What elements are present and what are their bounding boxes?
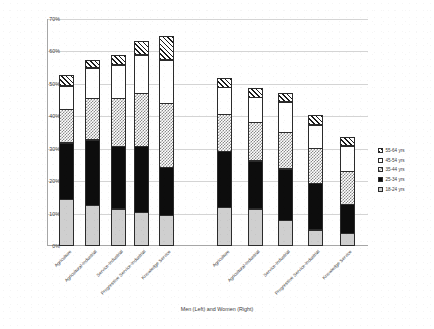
segment-18-24-yrs [248,209,263,246]
bar-women-0 [217,79,232,246]
y-tick-40%: 40% [20,113,60,119]
legend-label: 18-24 yrs [385,187,404,192]
segment-18-24-yrs [85,205,100,246]
segment-35-44-yrs [85,98,100,140]
legend-item-18-24-yrs: 18-24 yrs [378,184,432,194]
segment-45-54-yrs [59,86,74,110]
segment-25-34-yrs [59,143,74,200]
segment-35-44-yrs [248,122,263,161]
segment-35-44-yrs [278,132,293,169]
y-tick-50%: 50% [20,81,60,87]
bar-women-4 [340,137,355,246]
segment-25-34-yrs [217,151,232,208]
stacked-bar-chart: Proportion TEA Active 0%10%20%30%40%50%6… [0,0,434,329]
segment-45-54-yrs [85,68,100,99]
legend-label: 25-34 yrs [385,177,404,182]
segment-18-24-yrs [340,233,355,246]
segment-18-24-yrs [59,199,74,246]
segment-45-54-yrs [217,87,232,115]
segment-35-44-yrs [308,148,323,184]
segment-25-34-yrs [111,146,126,209]
legend-item-55-64-yrs: 55-64 yrs [378,146,432,156]
gridline-70% [48,19,368,20]
gridline-60% [48,51,368,52]
y-tick-30%: 30% [20,146,60,152]
x-tick-women-0: Agriculture [211,249,230,268]
chart-legend: 55-64 yrs45-54 yrs35-44 yrs25-34 yrs18-2… [378,146,432,194]
y-tick-60%: 60% [20,48,60,54]
legend-item-45-54-yrs: 45-54 yrs [378,156,432,166]
segment-45-54-yrs [278,102,293,133]
segment-25-34-yrs [278,169,293,221]
legend-label: 35-44 yrs [385,167,404,172]
y-tick-20%: 20% [20,178,60,184]
segment-55-64-yrs [134,41,149,56]
segment-25-34-yrs [134,146,149,212]
y-tick-0%: 0% [20,243,60,249]
legend-label: 55-64 yrs [385,148,404,153]
legend-label: 45-54 yrs [385,158,404,163]
segment-18-24-yrs [217,207,232,246]
x-tick-women-1: Agricultural-Industrial [227,249,261,283]
segment-35-44-yrs [340,171,355,205]
segment-18-24-yrs [111,209,126,246]
segment-55-64-yrs [159,36,174,60]
segment-55-64-yrs [59,75,74,86]
bar-men-2 [111,56,126,246]
segment-25-34-yrs [308,183,323,230]
segment-45-54-yrs [159,60,174,104]
x-tick-men-0: Agriculture [53,249,72,268]
x-tick-men-3: Progressive Service-Industrial [100,249,147,296]
legend-swatch-25-34-yrs [378,177,383,182]
segment-45-54-yrs [134,55,149,94]
segment-45-54-yrs [340,146,355,172]
legend-swatch-45-54-yrs [378,158,383,163]
legend-swatch-35-44-yrs [378,167,383,172]
bar-women-2 [278,93,293,246]
segment-18-24-yrs [159,215,174,246]
segment-45-54-yrs [111,65,126,99]
legend-item-25-34-yrs: 25-34 yrs [378,175,432,185]
segment-18-24-yrs [278,220,293,246]
x-tick-women-2: Service-Industrial [262,249,291,278]
segment-25-34-yrs [340,204,355,233]
y-tick-10%: 10% [20,211,60,217]
segment-25-34-yrs [85,140,100,206]
segment-35-44-yrs [59,109,74,143]
bar-men-0 [59,76,74,247]
segment-18-24-yrs [134,212,149,246]
bar-women-1 [248,88,263,246]
legend-swatch-18-24-yrs [378,187,383,192]
segment-35-44-yrs [217,114,232,151]
legend-item-35-44-yrs: 35-44 yrs [378,165,432,175]
segment-35-44-yrs [159,103,174,168]
bar-men-1 [85,61,100,246]
segment-25-34-yrs [248,161,263,210]
legend-swatch-55-64-yrs [378,148,383,153]
x-axis-title: Men (Left) and Women (Right) [0,306,434,312]
y-tick-70%: 70% [20,16,60,22]
segment-35-44-yrs [134,93,149,147]
segment-35-44-yrs [111,98,126,147]
bar-women-3 [308,116,323,246]
segment-45-54-yrs [308,125,323,149]
segment-18-24-yrs [308,230,323,246]
segment-25-34-yrs [159,167,174,216]
segment-45-54-yrs [248,97,263,123]
bar-men-3 [134,41,149,246]
bar-men-4 [159,37,174,246]
x-tick-women-4: Knowledge Service [322,249,353,280]
